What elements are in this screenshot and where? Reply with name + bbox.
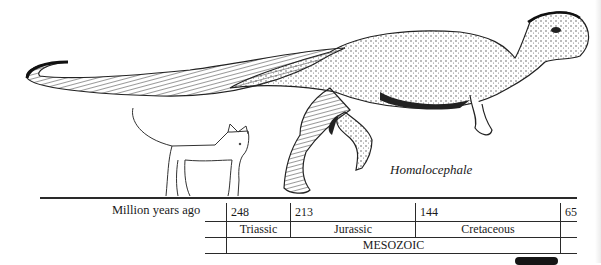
row-label-million-years-ago: Million years ago [112,203,200,217]
species-caption: Homalocephale [390,162,472,178]
ground-line [40,197,577,199]
dinosaur-illustration [27,12,589,193]
tick-line-65 [560,203,561,254]
period-jurassic: Jurassic [291,222,415,236]
scroll-indicator [515,257,558,265]
tick-label-213: 213 [295,205,313,219]
figure-illustration [0,0,601,200]
page-edge-shadow [595,0,601,263]
tick-label-65: 65 [565,205,577,219]
period-cretaceous: Cretaceous [416,222,560,236]
cat-illustration [132,108,248,196]
era-mesozoic: MESOZOIC [227,238,560,252]
row-divider-3 [205,253,577,254]
tick-label-144: 144 [420,205,438,219]
tick-label-248: 248 [231,205,249,219]
period-triassic: Triassic [227,222,290,236]
